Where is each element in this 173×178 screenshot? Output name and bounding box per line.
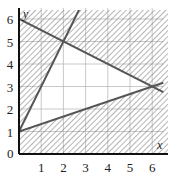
x-axis-label: x [156,138,163,152]
y-tick-label: 4 [7,57,14,72]
y-tick-label: 1 [7,125,14,140]
x-tick-label: 2 [60,160,67,175]
x-tick-label: 6 [149,160,156,175]
x-tick-labels: 123456 [38,160,156,175]
x-tick-label: 4 [105,160,112,175]
x-tick-label: 1 [38,160,45,175]
y-tick-label: 2 [7,102,14,117]
y-tick-labels: 123456 [7,12,14,140]
chart: y x 0 123456 123456 [0,0,173,178]
hatched-region [19,1,170,154]
y-tick-label: 5 [7,35,14,50]
y-tick-label: 6 [7,12,14,27]
hatched-regions [19,1,170,154]
x-tick-label: 5 [127,160,134,175]
y-axis-label: y [22,7,29,21]
origin-label: 0 [7,146,14,161]
y-tick-label: 3 [7,80,14,95]
x-tick-label: 3 [82,160,89,175]
